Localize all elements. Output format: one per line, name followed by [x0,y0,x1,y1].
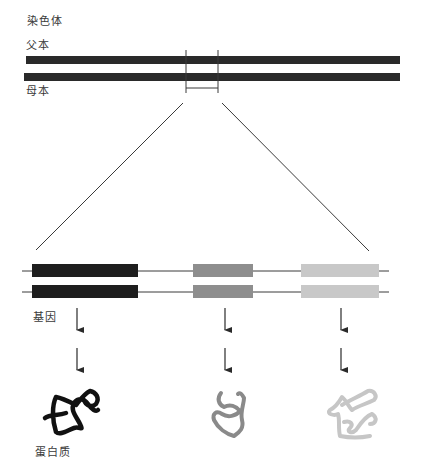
gene-1-maternal [32,285,138,298]
gene-2-paternal [193,264,253,277]
zoom-line-left [36,103,183,250]
paternal-chromosome [26,56,400,64]
gene-row-paternal [22,264,389,277]
zoom-line-right [222,103,369,251]
gene-3-maternal [301,285,379,298]
maternal-chromosome [24,73,400,81]
protein-1-icon [45,391,98,433]
gene-3-paternal [301,264,379,277]
gene-1-paternal [32,264,138,277]
arrows [77,308,341,370]
protein-2-icon [213,393,244,436]
gene-2-maternal [193,285,253,298]
protein-3-icon [329,391,376,438]
diagram-canvas [0,0,421,470]
gene-row-maternal [22,285,389,298]
